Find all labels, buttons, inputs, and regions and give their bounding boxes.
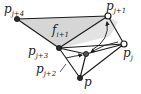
vertex-pj3 (56, 45, 61, 50)
label-pj4: pj+4 (4, 2, 24, 18)
label-pj2: pj+2 (36, 62, 57, 78)
triangulation-diagram: pj+4 pj+1 pj pj+3 pj+2 p fi+1 (0, 0, 141, 94)
vertex-p (77, 75, 82, 80)
edge-pj-p (80, 44, 124, 78)
arrow-to-pj2 (66, 55, 82, 58)
label-pj3: pj+3 (28, 44, 49, 60)
leader-pj2 (60, 64, 66, 72)
label-pj1: pj+1 (106, 0, 126, 15)
label-p: p (84, 75, 92, 89)
label-pj: pj (123, 46, 134, 62)
vertex-pj2 (83, 51, 88, 56)
vertex-pj1 (105, 13, 111, 19)
